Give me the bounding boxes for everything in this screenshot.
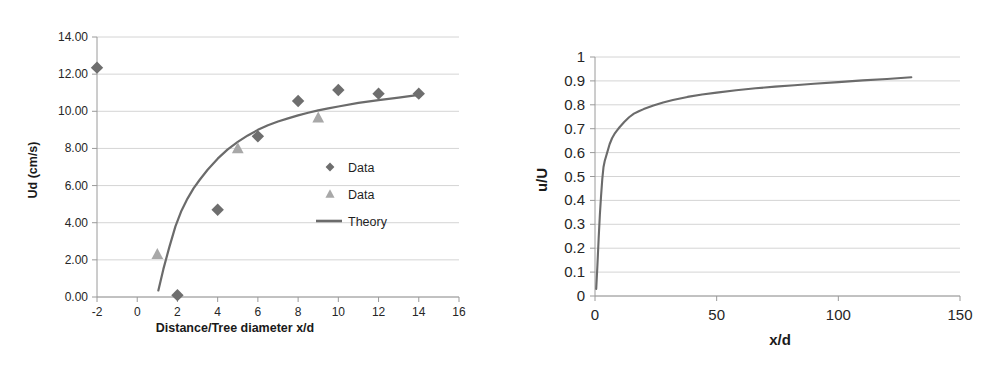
x-tick-label: 100 bbox=[826, 306, 851, 323]
left-legend: DataDataTheory bbox=[316, 161, 388, 229]
y-tick-label: 0 bbox=[577, 287, 585, 304]
legend-marker-triangle bbox=[325, 189, 334, 198]
right-profile-curve bbox=[596, 77, 911, 289]
left-axes bbox=[92, 37, 459, 302]
y-tick-label: 10.00 bbox=[58, 104, 88, 118]
data-point-diamond bbox=[171, 289, 183, 301]
data-point-triangle bbox=[312, 112, 324, 123]
y-tick-label: 8.00 bbox=[65, 141, 89, 155]
x-tick-label: 6 bbox=[255, 305, 262, 319]
left-data-diamond-markers bbox=[91, 61, 425, 301]
y-tick-label: 0.00 bbox=[65, 290, 89, 304]
x-tick-label: 2 bbox=[174, 305, 181, 319]
data-point-diamond bbox=[91, 61, 103, 73]
left-x-axis-title: Distance/Tree diameter x/d bbox=[156, 321, 314, 335]
chart-panel-left: 0.002.004.006.008.0010.0012.0014.00 -202… bbox=[0, 0, 500, 365]
y-tick-label: 4.00 bbox=[65, 216, 89, 230]
y-tick-label: 2.00 bbox=[65, 253, 89, 267]
data-point-diamond bbox=[332, 84, 344, 96]
left-y-tick-labels: 0.002.004.006.008.0010.0012.0014.00 bbox=[58, 30, 88, 304]
y-tick-label: 0.5 bbox=[564, 168, 585, 185]
data-point-diamond bbox=[292, 95, 304, 107]
right-x-axis-title: x/d bbox=[769, 331, 791, 348]
x-tick-label: 0 bbox=[591, 306, 599, 323]
y-tick-label: 0.2 bbox=[564, 239, 585, 256]
right-chart-svg: 00.10.20.30.40.50.60.70.80.91 050100150 … bbox=[500, 0, 997, 365]
x-tick-label: 16 bbox=[452, 305, 466, 319]
x-tick-label: 4 bbox=[214, 305, 221, 319]
x-tick-label: 0 bbox=[134, 305, 141, 319]
right-x-tick-labels: 050100150 bbox=[591, 306, 973, 323]
theory-line bbox=[158, 95, 418, 291]
right-y-tick-labels: 00.10.20.30.40.50.60.70.80.91 bbox=[564, 48, 585, 304]
legend-label: Data bbox=[348, 161, 374, 175]
y-tick-label: 1 bbox=[577, 48, 585, 65]
left-theory-curve bbox=[158, 95, 418, 291]
legend-label: Theory bbox=[348, 215, 388, 229]
right-axes bbox=[590, 57, 960, 301]
y-tick-label: 0.6 bbox=[564, 144, 585, 161]
right-y-axis-title: u/U bbox=[533, 168, 550, 192]
figure-root: 0.002.004.006.008.0010.0012.0014.00 -202… bbox=[0, 0, 997, 365]
left-x-tick-labels: -20246810121416 bbox=[92, 305, 466, 319]
left-chart-svg: 0.002.004.006.008.0010.0012.0014.00 -202… bbox=[0, 0, 500, 365]
y-tick-label: 0.4 bbox=[564, 191, 585, 208]
data-point-diamond bbox=[413, 87, 425, 99]
y-tick-label: 0.9 bbox=[564, 72, 585, 89]
profile-line bbox=[596, 77, 911, 289]
legend-label: Data bbox=[348, 188, 374, 202]
y-tick-label: 0.3 bbox=[564, 215, 585, 232]
x-tick-label: 12 bbox=[372, 305, 386, 319]
data-point-triangle bbox=[151, 248, 163, 259]
x-tick-label: 10 bbox=[332, 305, 346, 319]
x-tick-label: 50 bbox=[708, 306, 725, 323]
y-tick-label: 0.7 bbox=[564, 120, 585, 137]
data-point-diamond bbox=[211, 204, 223, 216]
legend-marker-diamond bbox=[326, 163, 335, 172]
x-tick-label: 8 bbox=[295, 305, 302, 319]
right-gridlines bbox=[595, 57, 960, 296]
x-tick-label: 14 bbox=[412, 305, 426, 319]
y-tick-label: 12.00 bbox=[58, 67, 88, 81]
data-point-diamond bbox=[372, 87, 384, 99]
left-y-axis-title: Ud (cm/s) bbox=[26, 142, 40, 199]
y-tick-label: 0.8 bbox=[564, 96, 585, 113]
y-tick-label: 0.1 bbox=[564, 263, 585, 280]
chart-panel-right: 00.10.20.30.40.50.60.70.80.91 050100150 … bbox=[500, 0, 997, 365]
x-tick-label: -2 bbox=[92, 305, 103, 319]
y-tick-label: 6.00 bbox=[65, 179, 89, 193]
x-tick-label: 150 bbox=[947, 306, 972, 323]
left-gridlines bbox=[97, 37, 459, 297]
y-tick-label: 14.00 bbox=[58, 30, 88, 44]
